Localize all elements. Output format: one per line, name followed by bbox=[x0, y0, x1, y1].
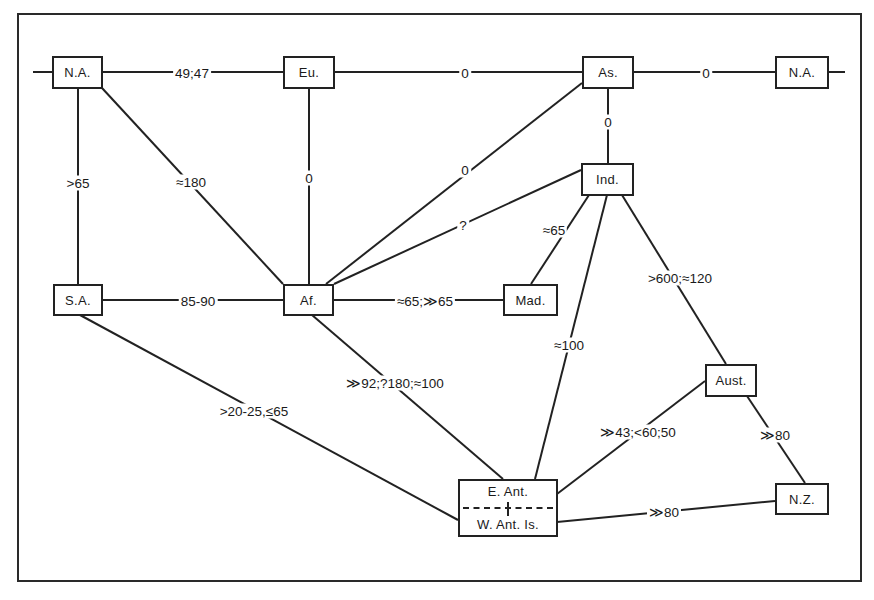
node-north-america-left: N.A. bbox=[52, 56, 103, 89]
node-asia: As. bbox=[582, 56, 634, 89]
node-label: N.Z. bbox=[789, 492, 815, 507]
edge-label-as-af: 0 bbox=[459, 163, 471, 178]
edge-label-ind-af: ? bbox=[457, 218, 469, 233]
edge-label-ind-aust: >600;≈120 bbox=[646, 271, 714, 286]
edge-line-af-ant bbox=[312, 315, 503, 479]
diagram-canvas: N.A. Eu. As. N.A. Ind. S.A. Af. Mad. Aus… bbox=[0, 0, 874, 600]
edge-label-aust-nz: ≫80 bbox=[758, 428, 792, 443]
edge-label-sa-ant: >20-25,≤65 bbox=[218, 404, 291, 419]
node-label: Eu. bbox=[299, 65, 319, 80]
node-label: Aust. bbox=[715, 373, 746, 388]
edge-label-aust-ant: ≫43;<60;50 bbox=[598, 425, 677, 440]
node-europe: Eu. bbox=[283, 56, 335, 89]
edge-label-na-eu: 49;47 bbox=[173, 66, 211, 81]
edge-label-na-sa: >65 bbox=[65, 176, 92, 191]
edge-label-af-ant: ≫92;?180;≈100 bbox=[344, 376, 445, 391]
node-africa: Af. bbox=[283, 284, 334, 316]
edge-label-af-mad: ≈65;≫65 bbox=[395, 294, 455, 309]
edge-label-ind-ant: ≈100 bbox=[552, 338, 586, 353]
edge-label-sa-af: 85-90 bbox=[179, 294, 218, 309]
edge-label-ant-nz: ≫80 bbox=[647, 505, 681, 520]
node-madagascar: Mad. bbox=[503, 284, 558, 316]
edge-line-as-af bbox=[326, 83, 582, 284]
node-label-west-antarctica: W. Ant. Is. bbox=[477, 517, 539, 532]
node-label: N.A. bbox=[789, 65, 815, 80]
edge-label-eu-af: 0 bbox=[303, 171, 315, 186]
node-label: Ind. bbox=[596, 172, 619, 187]
node-south-america: S.A. bbox=[53, 284, 103, 316]
edge-label-ind-mad: ≈65 bbox=[541, 223, 567, 238]
edge-label-na-af: ≈180 bbox=[174, 175, 208, 190]
node-new-zealand: N.Z. bbox=[775, 483, 829, 515]
edge-label-as-ind: 0 bbox=[602, 115, 614, 130]
edge-line-ind-mad bbox=[531, 195, 589, 284]
dashed-divider bbox=[463, 507, 553, 509]
node-north-america-right: N.A. bbox=[775, 56, 829, 89]
divider-tick bbox=[507, 502, 509, 516]
edge-label-eu-as: 0 bbox=[459, 66, 471, 81]
node-label: N.A. bbox=[64, 65, 90, 80]
node-label-east-antarctica: E. Ant. bbox=[488, 484, 528, 499]
node-antarctica: E. Ant. W. Ant. Is. bbox=[458, 479, 558, 537]
node-label: S.A. bbox=[65, 293, 91, 308]
edge-label-as-na: 0 bbox=[700, 66, 712, 81]
node-india: Ind. bbox=[581, 163, 634, 196]
node-label: As. bbox=[598, 65, 618, 80]
node-label: Mad. bbox=[515, 293, 545, 308]
node-australia: Aust. bbox=[705, 364, 757, 397]
node-label: Af. bbox=[300, 293, 317, 308]
